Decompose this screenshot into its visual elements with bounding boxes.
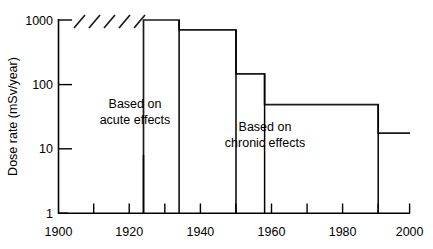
y-tick-label-100: 100	[32, 78, 53, 92]
y-tick-label-10: 10	[39, 142, 53, 156]
y-axis-title: Dose rate (mSv/year)	[6, 57, 20, 176]
chronic-effects-line2: chronic effects	[225, 136, 305, 150]
x-tick-label-2000: 2000	[396, 225, 424, 239]
acute-effects-annotation: Based on acute effects	[100, 97, 171, 127]
x-tick-label-1920: 1920	[115, 225, 143, 239]
y-tick-label-1000: 1000	[25, 14, 53, 28]
chart-svg: 1000 100 10 1 Dose rate (mSv/year) 1900 …	[0, 0, 433, 249]
chronic-effects-line1: Based on	[239, 120, 292, 134]
acute-effects-line2: acute effects	[100, 113, 171, 127]
x-tick-label-1980: 1980	[329, 225, 357, 239]
acute-effects-line1: Based on	[109, 97, 162, 111]
y-tick-label-1: 1	[46, 207, 53, 221]
x-tick-label-1900: 1900	[45, 225, 73, 239]
dose-rate-step-chart: 1000 100 10 1 Dose rate (mSv/year) 1900 …	[0, 0, 433, 249]
x-tick-label-1960: 1960	[258, 225, 286, 239]
x-tick-label-1940: 1940	[186, 225, 214, 239]
open-top-hatching-icon	[74, 15, 145, 28]
dose-limit-step-curve	[144, 20, 411, 213]
